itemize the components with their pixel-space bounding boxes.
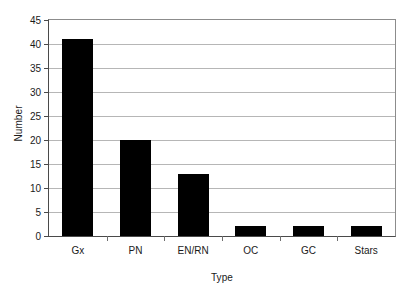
y-axis-tick-label: 0 — [35, 231, 41, 242]
plot-area: 051015202530354045GxPNEN/RNOCGCStars — [48, 19, 396, 237]
bar — [62, 39, 93, 236]
gridline — [49, 188, 395, 189]
gridline — [49, 116, 395, 117]
gridline — [49, 44, 395, 45]
bar — [178, 174, 209, 236]
x-axis-tick-label: EN/RN — [178, 245, 209, 256]
y-axis-tick-mark — [44, 68, 49, 69]
bar — [235, 226, 266, 236]
y-axis-tick-label: 10 — [30, 183, 41, 194]
y-axis-tick-label: 30 — [30, 87, 41, 98]
y-axis-tick-mark — [44, 236, 49, 237]
x-axis-tick-mark — [164, 236, 165, 241]
y-axis-tick-mark — [44, 116, 49, 117]
x-axis-title: Type — [48, 272, 396, 283]
gridline — [49, 140, 395, 141]
x-axis-tick-label: Stars — [354, 245, 377, 256]
y-axis-tick-mark — [44, 188, 49, 189]
y-axis-tick-mark — [44, 164, 49, 165]
y-axis-title: Number — [13, 84, 24, 164]
x-axis-tick-mark — [337, 236, 338, 241]
bar-chart: Number 051015202530354045GxPNEN/RNOCGCSt… — [0, 0, 417, 300]
x-axis-tick-mark — [280, 236, 281, 241]
y-axis-tick-label: 40 — [30, 39, 41, 50]
bar — [351, 226, 382, 236]
x-axis-tick-mark — [107, 236, 108, 241]
x-axis-tick-label: Gx — [71, 245, 84, 256]
x-axis-tick-mark — [222, 236, 223, 241]
y-axis-tick-mark — [44, 212, 49, 213]
bar — [293, 226, 324, 236]
y-axis-tick-mark — [44, 92, 49, 93]
y-axis-tick-mark — [44, 44, 49, 45]
y-axis-tick-label: 5 — [35, 207, 41, 218]
y-axis-tick-label: 25 — [30, 111, 41, 122]
x-axis-tick-label: GC — [301, 245, 316, 256]
y-axis-tick-mark — [44, 20, 49, 21]
bar — [120, 140, 151, 236]
x-axis-tick-label: PN — [129, 245, 143, 256]
y-axis-tick-label: 35 — [30, 63, 41, 74]
x-axis-tick-label: OC — [243, 245, 258, 256]
y-axis-tick-label: 15 — [30, 159, 41, 170]
gridline — [49, 212, 395, 213]
gridline — [49, 92, 395, 93]
y-axis-tick-mark — [44, 140, 49, 141]
gridline — [49, 68, 395, 69]
y-axis-tick-label: 45 — [30, 15, 41, 26]
gridline — [49, 164, 395, 165]
y-axis-tick-label: 20 — [30, 135, 41, 146]
